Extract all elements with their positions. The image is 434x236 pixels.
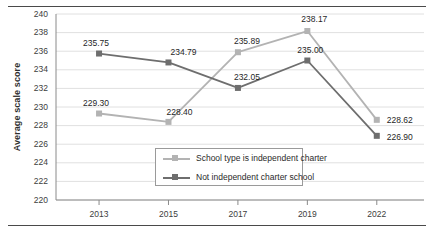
series-marker: [374, 133, 380, 139]
x-axis-tick-label: 2017: [208, 209, 268, 219]
y-axis-tick-label: 234: [14, 64, 48, 74]
chart-canvas: [0, 6, 434, 225]
x-axis-tick-label: 2019: [277, 209, 337, 219]
legend: School type is independent charter Not i…: [155, 148, 303, 186]
data-point-label: 226.90: [387, 132, 413, 142]
data-point-label: 228.40: [166, 107, 192, 117]
legend-item-independent-charter: School type is independent charter: [156, 149, 302, 168]
x-axis-tick-label: 2013: [69, 209, 129, 219]
data-point-label: 235.75: [83, 38, 109, 48]
series-marker: [235, 49, 241, 55]
series-marker: [96, 51, 102, 57]
series-marker: [165, 59, 171, 65]
data-point-label: 229.30: [83, 98, 109, 108]
legend-item-not-independent-charter: Not independent charter school: [156, 168, 302, 187]
data-point-label: 228.62: [387, 115, 413, 125]
y-axis-tick-label: 236: [14, 46, 48, 56]
y-axis-tick-label: 226: [14, 139, 48, 149]
legend-marker-icon: [172, 155, 178, 161]
x-axis-tick-label: 2015: [138, 209, 198, 219]
y-axis-tick-label: 238: [14, 27, 48, 37]
series-marker: [374, 117, 380, 123]
series-marker: [304, 28, 310, 34]
data-point-label: 235.89: [234, 36, 260, 46]
series-marker: [165, 119, 171, 125]
y-axis-tick-label: 222: [14, 176, 48, 186]
data-point-label: 238.17: [301, 14, 327, 24]
legend-marker-icon: [172, 174, 178, 180]
y-axis-tick-label: 230: [14, 102, 48, 112]
data-point-label: 234.79: [170, 47, 196, 57]
legend-label: School type is independent charter: [196, 153, 327, 163]
y-axis-tick-label: 220: [14, 195, 48, 205]
chart-figure: Average scale score 24023823623423223022…: [0, 0, 434, 236]
x-axis-tick-label: 2022: [347, 209, 407, 219]
bottom-divider-rule: [8, 225, 426, 226]
series-marker: [235, 85, 241, 91]
series-marker: [96, 111, 102, 117]
x-axis-tick-marks: [99, 200, 377, 205]
y-axis-tick-label: 232: [14, 83, 48, 93]
data-point-label: 235.00: [297, 45, 323, 55]
y-axis-tick-label: 224: [14, 157, 48, 167]
y-axis-tick-label: 228: [14, 120, 48, 130]
y-axis-tick-label: 240: [14, 9, 48, 19]
data-point-label: 232.05: [234, 72, 260, 82]
plot-area: Average scale score 24023823623423223022…: [0, 6, 434, 225]
series-marker: [304, 58, 310, 64]
legend-label: Not independent charter school: [196, 172, 314, 182]
